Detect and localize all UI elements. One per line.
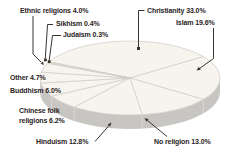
label-hinduism: Hinduism 12.8%	[36, 138, 88, 146]
pie-chart-figure: Ethnic religions 4.0% Sikhism 0.4% Judai…	[0, 0, 230, 153]
ethnic-religions-leader-line	[33, 16, 41, 62]
christianity-end-dot-icon	[137, 47, 140, 50]
hinduism-leader-line	[95, 126, 109, 142]
label-judaism: Judaism 0.3%	[63, 31, 108, 39]
label-chinese-folk-line1: Chinese folk	[19, 107, 65, 115]
judaism-end-dot-icon	[48, 60, 51, 63]
label-chinese-folk-line2: religions 6.2%	[19, 117, 65, 125]
label-chinese-folk-religions: Chinese folk religions 6.2%	[19, 107, 65, 125]
label-christianity: Christianity 33.0%	[147, 7, 206, 15]
ethnic-religions-arrowhead-icon	[41, 62, 44, 65]
label-islam: Islam 19.6%	[176, 19, 215, 27]
label-sikhism: Sikhism 0.4%	[56, 20, 100, 28]
label-buddhism: Buddhism 6.0%	[10, 87, 61, 95]
label-ethnic-religions: Ethnic religions 4.0%	[20, 7, 88, 15]
sikhism-end-dot-icon	[44, 59, 47, 62]
label-other: Other 4.7%	[10, 74, 46, 82]
label-no-religion: No religion 13.0%	[154, 138, 211, 146]
pie-slices	[40, 41, 220, 115]
